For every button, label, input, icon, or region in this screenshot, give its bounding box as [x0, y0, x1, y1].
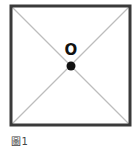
point-label-o: O [65, 41, 78, 59]
square-diagram: O [0, 0, 137, 152]
figure-caption: 圖1 [11, 133, 28, 148]
center-point-dot [67, 62, 76, 71]
